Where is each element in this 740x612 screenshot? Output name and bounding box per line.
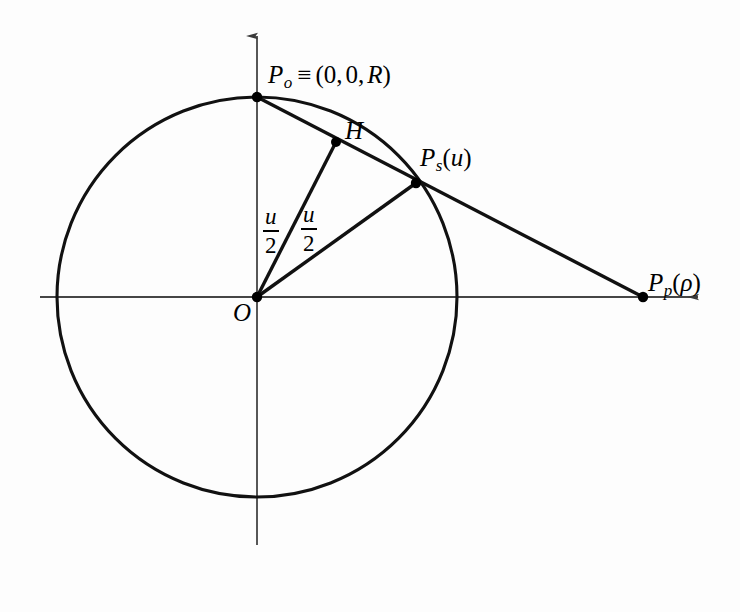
figure-canvas: Po≡(0,0,R) H Ps(u) Pp(ρ) O u 2 u 2 — [0, 0, 740, 612]
point-dot-o — [252, 292, 262, 302]
point-dot-po — [252, 92, 262, 102]
label-po-coord-y: 0 — [345, 61, 358, 88]
label-ps-open-paren: ( — [442, 144, 450, 171]
label-ps-argument: u — [451, 144, 464, 171]
frac-right-bar — [301, 228, 317, 230]
point-dot-h — [331, 137, 341, 147]
label-po-comma-1: , — [336, 61, 342, 88]
label-angle-u-over-2-left: u 2 — [263, 205, 279, 257]
label-pp-p: P — [648, 269, 663, 296]
point-dot-ps — [411, 178, 421, 188]
label-pp-open-paren: ( — [672, 269, 680, 296]
label-po-coord-z: R — [367, 61, 382, 88]
label-po-p: P — [268, 61, 283, 88]
segment-po-pp — [257, 97, 643, 297]
label-pp-subscript: p — [664, 281, 673, 300]
label-po-coord-x: 0 — [324, 61, 337, 88]
label-po-subscript: o — [284, 73, 293, 92]
frac-left-numerator: u — [263, 205, 279, 229]
frac-right-denominator: 2 — [301, 231, 317, 255]
label-point-po: Po≡(0,0,R) — [268, 62, 391, 91]
label-point-pp: Pp(ρ) — [648, 270, 701, 299]
label-po-open-paren: ( — [315, 61, 323, 88]
label-po-equiv-sign: ≡ — [297, 61, 311, 88]
label-ps-p: P — [420, 144, 435, 171]
label-po-comma-2: , — [358, 61, 364, 88]
label-point-h: H — [345, 118, 363, 143]
frac-left-denominator: 2 — [263, 233, 279, 257]
label-angle-u-over-2-right: u 2 — [301, 203, 317, 255]
label-point-ps: Ps(u) — [420, 145, 472, 174]
label-pp-close-paren: ) — [693, 269, 701, 296]
label-pp-argument: ρ — [681, 269, 693, 296]
point-dot-pp — [638, 292, 648, 302]
label-po-close-paren: ) — [383, 61, 391, 88]
segment-o-ps — [257, 183, 416, 297]
label-point-origin: O — [233, 300, 251, 325]
frac-left-bar — [263, 230, 279, 232]
label-ps-close-paren: ) — [463, 144, 471, 171]
geometry-diagram — [0, 0, 740, 612]
frac-right-numerator: u — [301, 203, 317, 227]
